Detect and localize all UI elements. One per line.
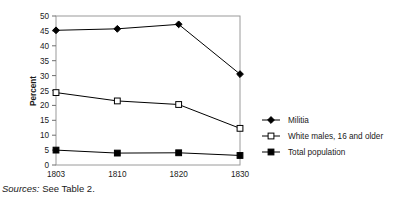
open-square-marker	[176, 102, 182, 108]
filled-square-marker	[53, 147, 59, 153]
y-axis-tick-label: 30	[40, 72, 50, 81]
x-axis-tick-labels: 1803181018201830	[47, 170, 250, 179]
x-axis-tick-label: 1830	[231, 170, 250, 179]
y-axis-tick-label: 45	[40, 27, 50, 36]
x-axis-tick-label: 1820	[170, 170, 189, 179]
source-note: Sources: See Table 2.	[2, 183, 95, 194]
open-square-marker	[53, 90, 59, 96]
line-chart: 05101520253035404550 1803181018201830 Pe…	[0, 0, 406, 180]
y-axis-tick-label: 10	[40, 131, 50, 140]
data-point-filled-square	[176, 150, 182, 156]
open-square-marker	[114, 98, 120, 104]
y-axis-tick-label: 5	[44, 146, 49, 155]
legend-item-0: Militia	[262, 116, 309, 125]
legend-label: Militia	[288, 116, 309, 125]
plot-area-frame	[56, 16, 240, 165]
x-axis-tick-label: 1803	[47, 170, 66, 179]
y-axis-tick-labels: 05101520253035404550	[40, 12, 50, 170]
legend-item-2: Total population	[262, 148, 346, 157]
data-point-filled-square	[268, 149, 274, 155]
filled-square-marker	[268, 149, 274, 155]
filled-square-marker	[114, 150, 120, 156]
data-point-open-square	[114, 98, 120, 104]
legend-label: White males, 16 and older	[288, 132, 383, 141]
diamond-marker	[268, 117, 275, 124]
y-axis-tick-label: 35	[40, 57, 50, 66]
y-axis-tick-label: 40	[40, 42, 50, 51]
filled-square-marker	[237, 153, 243, 159]
filled-square-marker	[176, 150, 182, 156]
data-point-open-square	[53, 90, 59, 96]
data-point-filled-square	[53, 147, 59, 153]
x-axis-tick-label: 1810	[108, 170, 127, 179]
data-point-filled-square	[237, 153, 243, 159]
y-axis-tick-label: 25	[40, 87, 50, 96]
y-axis-tick-label: 20	[40, 101, 50, 110]
open-square-marker	[237, 125, 243, 131]
legend-item-1: White males, 16 and older	[262, 132, 383, 141]
data-point-open-square	[176, 102, 182, 108]
y-axis-tick-label: 15	[40, 116, 50, 125]
y-axis-tick-label: 50	[40, 12, 50, 21]
y-axis-tick-label: 0	[44, 161, 49, 170]
data-point-filled-diamond	[268, 117, 275, 124]
chart-legend: MilitiaWhite males, 16 and olderTotal po…	[262, 116, 383, 157]
figure-container: 05101520253035404550 1803181018201830 Pe…	[0, 0, 406, 204]
legend-label: Total population	[288, 148, 346, 157]
y-axis-title: Percent	[29, 76, 38, 106]
data-point-open-square	[268, 133, 274, 139]
source-note-prefix: Sources:	[2, 183, 40, 194]
data-point-filled-square	[114, 150, 120, 156]
open-square-marker	[268, 133, 274, 139]
source-note-text: See Table 2.	[40, 183, 95, 194]
data-point-open-square	[237, 125, 243, 131]
